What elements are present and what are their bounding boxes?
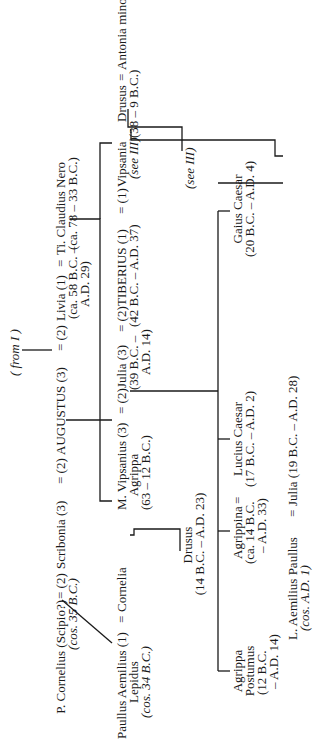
l-paullus-note: (cos. A.D. 1) <box>299 565 311 631</box>
vipsania-ref: (see III) <box>128 138 140 180</box>
marriage-sign: = <box>287 510 299 517</box>
julia-dates-2: A.D. 14) <box>140 329 152 375</box>
person-augustus: AUGUSTUS (3) <box>55 367 67 455</box>
line-paullus-child <box>130 130 283 156</box>
line-livia-drusus <box>100 143 112 219</box>
tiberius-dates: (42 B.C. – A.D. 37) <box>128 224 140 327</box>
marriage-sign: = (2) <box>116 388 128 414</box>
person-antonia: Antonia minor <box>116 0 128 70</box>
marriage-sign: = (2) <box>55 573 67 599</box>
connector-lines <box>0 0 320 739</box>
cornelius-note: (cos. 35 B.C.) <box>67 574 79 654</box>
marriage-sign: = (2) <box>55 458 67 484</box>
from-i-ref: ( from I ) <box>9 329 21 376</box>
agrippa-dates: (63 – 12 B.C.) <box>140 440 152 510</box>
family-tree-diagram: ( from I ) P. Cornelius (Scipio?) (cos. … <box>0 0 320 739</box>
gaius-dates: (20 B.C. – A.D. 4) <box>244 149 256 269</box>
nero-dates: (ca. 78 – 33 B.C.) <box>67 157 79 250</box>
line-tiberius-drusus <box>130 529 180 551</box>
person-julia-younger: Julia (19 B.C. – A.D. 28) <box>287 376 299 506</box>
marriage-sign: = <box>55 260 67 267</box>
paullus-note: (cos. 34 B.C.) <box>140 625 152 739</box>
lucius-dates: (17 B.C. – A.D. 2) <box>244 379 256 499</box>
person-cornelia: Cornelia <box>116 567 128 612</box>
livia-dates-2: A.D. 29) <box>79 261 91 307</box>
agrippina-dates-2: – A.D. 33) <box>256 498 268 553</box>
marriage-sign: = (1) <box>116 188 128 214</box>
marriage-sign: = <box>232 497 244 504</box>
marriage-sign: = <box>116 616 128 623</box>
marriage-sign: = (2) <box>55 325 67 351</box>
postumus-dates-2: – A.D. 14) <box>268 634 280 689</box>
antonia-ref: (see III) <box>184 148 196 190</box>
marriage-sign: = <box>116 74 128 81</box>
drusus-elder-dates: (38 – 9 B.C.) <box>128 70 140 138</box>
person-scribonia: Scribonia (3) <box>55 501 67 569</box>
drusus-younger-dates: (14 B.C. – A.D. 23) <box>194 489 206 599</box>
